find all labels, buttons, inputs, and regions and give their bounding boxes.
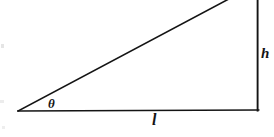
scan-artifact-speck — [2, 126, 5, 129]
height-h-label: h — [261, 46, 269, 61]
scan-artifact-speck — [1, 44, 4, 48]
length-l-label: l — [152, 112, 156, 128]
triangle-hypotenuse-edge — [18, 0, 257, 111]
angle-theta-label: θ — [48, 97, 55, 110]
scan-artifact-speck — [0, 100, 4, 103]
triangle-diagram-svg — [0, 0, 274, 137]
triangle-figure: θ h l — [0, 0, 274, 137]
